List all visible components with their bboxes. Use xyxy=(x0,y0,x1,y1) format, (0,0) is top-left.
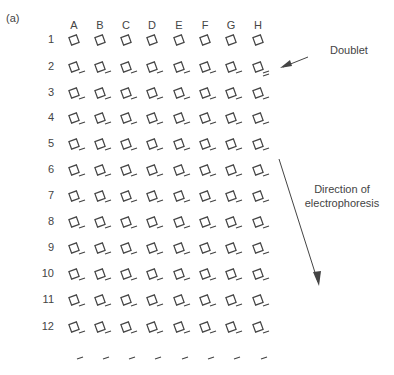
band-dash xyxy=(131,97,137,99)
band-dash xyxy=(79,174,85,176)
band-dash xyxy=(105,200,111,202)
band-dash xyxy=(157,304,163,306)
band-dash xyxy=(79,200,85,202)
band-dash xyxy=(105,331,111,333)
well-square xyxy=(147,165,157,175)
well-square xyxy=(253,88,263,98)
well-square xyxy=(95,269,105,279)
direction-arrowhead-icon xyxy=(313,271,321,286)
band-dash xyxy=(236,278,242,280)
well-square xyxy=(147,217,157,227)
well-square xyxy=(95,191,105,201)
well-square xyxy=(200,139,210,149)
band-dash xyxy=(105,278,111,280)
trailing-band-dash xyxy=(103,357,109,359)
well-square xyxy=(95,139,105,149)
well-square xyxy=(121,191,131,201)
well-square xyxy=(200,217,210,227)
doublet-arrowhead-icon xyxy=(280,60,292,68)
well-square xyxy=(69,62,79,72)
band-dash xyxy=(157,148,163,150)
band-dash xyxy=(79,252,85,254)
band-dash xyxy=(157,331,163,333)
well-square xyxy=(121,62,131,72)
band-dash xyxy=(157,200,163,202)
well-square xyxy=(253,113,263,123)
band-dash xyxy=(79,278,85,280)
band-dash xyxy=(105,71,111,73)
well-square xyxy=(200,191,210,201)
well-square xyxy=(121,139,131,149)
well-square xyxy=(226,113,236,123)
well-square xyxy=(226,62,236,72)
band-dash xyxy=(157,71,163,73)
well-square xyxy=(69,217,79,227)
band-dash xyxy=(131,278,137,280)
band-dash xyxy=(105,122,111,124)
band-dash xyxy=(210,174,216,176)
well-square xyxy=(121,243,131,253)
band-dash xyxy=(131,200,137,202)
well-square xyxy=(174,217,184,227)
direction-arrow-line xyxy=(279,159,318,282)
well-square xyxy=(174,243,184,253)
well-square xyxy=(95,165,105,175)
well-square xyxy=(95,62,105,72)
band-dash xyxy=(79,71,85,73)
trailing-band-dash xyxy=(261,357,267,359)
well-square xyxy=(147,113,157,123)
band-dash xyxy=(184,304,190,306)
well-square xyxy=(147,35,157,45)
well-square xyxy=(226,217,236,227)
trailing-band-dash xyxy=(234,357,240,359)
well-square xyxy=(95,322,105,332)
well-square xyxy=(147,88,157,98)
well-square xyxy=(253,35,263,45)
well-square xyxy=(147,295,157,305)
well-square xyxy=(69,191,79,201)
well-square xyxy=(121,295,131,305)
band-dash xyxy=(210,200,216,202)
well-square xyxy=(69,269,79,279)
band-dash xyxy=(236,97,242,99)
band-dash xyxy=(131,331,137,333)
band-dash xyxy=(79,331,85,333)
band-dash xyxy=(236,304,242,306)
band-dash xyxy=(184,122,190,124)
well-square xyxy=(147,322,157,332)
well-square xyxy=(95,217,105,227)
well-square xyxy=(253,322,263,332)
well-square xyxy=(226,165,236,175)
trailing-band-dash xyxy=(155,357,161,359)
band-dash xyxy=(184,331,190,333)
well-square xyxy=(253,217,263,227)
well-square xyxy=(174,35,184,45)
band-dash xyxy=(105,252,111,254)
well-square xyxy=(200,113,210,123)
well-square xyxy=(121,165,131,175)
well-square xyxy=(226,191,236,201)
well-square xyxy=(69,295,79,305)
band-dash xyxy=(157,97,163,99)
band-dash xyxy=(105,304,111,306)
well-square xyxy=(253,269,263,279)
band-dash xyxy=(263,252,269,254)
band-dash xyxy=(157,122,163,124)
well-square xyxy=(200,35,210,45)
band-dash xyxy=(184,200,190,202)
well-square xyxy=(147,139,157,149)
band-dash xyxy=(263,174,269,176)
band-dash xyxy=(131,71,137,73)
band-dash xyxy=(131,174,137,176)
band-dash xyxy=(236,122,242,124)
band-dash xyxy=(236,331,242,333)
direction-label-line2: electrophoresis xyxy=(292,198,392,209)
band-dash xyxy=(263,331,269,333)
band-dash xyxy=(79,226,85,228)
well-square xyxy=(174,165,184,175)
band-dash xyxy=(79,122,85,124)
well-square xyxy=(95,295,105,305)
well-square xyxy=(226,243,236,253)
band-dash xyxy=(236,174,242,176)
well-square xyxy=(226,139,236,149)
